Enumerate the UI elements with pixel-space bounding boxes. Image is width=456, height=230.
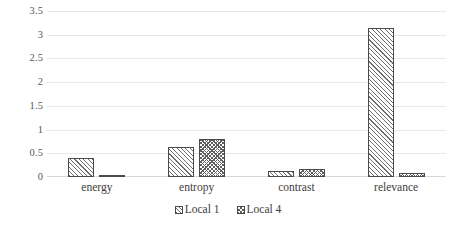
y-tick-label: 1 bbox=[0, 125, 43, 135]
y-tick-label: 0.5 bbox=[0, 148, 43, 158]
x-axis: energy entropy contrast relevance bbox=[47, 180, 446, 194]
bar-local1-entropy bbox=[168, 147, 194, 177]
bar-local4-relevance bbox=[399, 173, 425, 177]
bar-group-contrast bbox=[247, 11, 347, 177]
plot-area bbox=[47, 11, 446, 177]
bar-groups bbox=[47, 11, 446, 177]
y-tick-label: 1.5 bbox=[0, 101, 43, 111]
x-label-entropy: entropy bbox=[147, 180, 247, 194]
bar-group-relevance bbox=[346, 11, 446, 177]
legend-label-local1: Local 1 bbox=[185, 203, 220, 216]
bar-local1-relevance bbox=[368, 28, 394, 177]
x-label-relevance: relevance bbox=[346, 180, 446, 194]
y-tick-label: 3.5 bbox=[0, 6, 43, 16]
y-tick-label: 2.5 bbox=[0, 53, 43, 63]
legend-label-local4: Local 4 bbox=[247, 203, 282, 216]
x-label-energy: energy bbox=[47, 180, 147, 194]
bar-local1-energy bbox=[68, 158, 94, 177]
bar-group-energy bbox=[47, 11, 147, 177]
bar-local4-entropy bbox=[199, 139, 225, 177]
legend-swatch-checker-icon bbox=[237, 206, 245, 214]
legend-swatch-hatch-icon bbox=[175, 206, 183, 214]
y-axis: 3.5 3 2.5 2 1.5 1 0.5 0 bbox=[0, 11, 43, 177]
bar-chart: 3.5 3 2.5 2 1.5 1 0.5 0 bbox=[0, 0, 456, 230]
legend-item-local4: Local 4 bbox=[237, 203, 282, 216]
legend: Local 1 Local 4 bbox=[0, 203, 456, 216]
bar-local4-energy bbox=[99, 175, 125, 177]
bar-local4-contrast bbox=[299, 169, 325, 177]
y-tick-label: 3 bbox=[0, 30, 43, 40]
y-tick-label: 2 bbox=[0, 77, 43, 87]
bar-group-entropy bbox=[147, 11, 247, 177]
bar-local1-contrast bbox=[268, 171, 294, 177]
legend-item-local1: Local 1 bbox=[175, 203, 220, 216]
x-label-contrast: contrast bbox=[247, 180, 347, 194]
y-tick-label: 0 bbox=[0, 172, 43, 182]
